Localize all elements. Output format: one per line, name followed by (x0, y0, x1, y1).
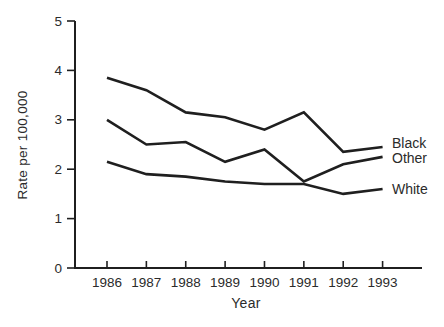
series-line-white (107, 162, 383, 194)
y-tick-label: 0 (54, 261, 62, 276)
x-tick-label: 1993 (368, 275, 398, 290)
series-label-white: White (392, 181, 428, 197)
y-tick-label: 2 (54, 162, 62, 177)
x-tick-label: 1990 (249, 275, 279, 290)
series-label-other: Other (392, 150, 427, 166)
y-tick-label: 3 (54, 112, 62, 127)
x-tick-label: 1987 (131, 275, 161, 290)
y-tick-label: 4 (54, 63, 62, 78)
x-tick-label: 1989 (210, 275, 240, 290)
line-chart: 01234519861987198819891990199119921993Bl… (0, 0, 444, 327)
x-tick-label: 1988 (171, 275, 201, 290)
figure-canvas: 01234519861987198819891990199119921993Bl… (0, 0, 444, 327)
y-axis-title: Rate per 100,000 (15, 90, 30, 199)
y-tick-label: 1 (54, 211, 62, 226)
x-axis-title: Year (231, 295, 261, 311)
x-tick-label: 1992 (328, 275, 358, 290)
series-label-black: Black (392, 135, 427, 151)
y-tick-label: 5 (54, 14, 62, 29)
series-line-black (107, 78, 383, 152)
x-tick-label: 1986 (92, 275, 122, 290)
x-tick-label: 1991 (289, 275, 319, 290)
